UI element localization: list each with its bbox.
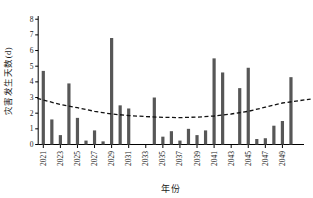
bar-2044 xyxy=(238,88,241,144)
x-tick-label-2041: 2041 xyxy=(210,151,219,166)
chart-plot-area: 0123456782021202320252027202920312033203… xyxy=(0,0,313,198)
bar-2048 xyxy=(272,126,275,145)
y-tick-label-8: 8 xyxy=(30,15,34,24)
bar-2035 xyxy=(161,137,164,145)
x-tick-label-2027: 2027 xyxy=(90,151,99,166)
bar-2029 xyxy=(110,38,113,144)
x-tick-label-2035: 2035 xyxy=(158,151,167,166)
y-tick-label-7: 7 xyxy=(30,30,34,39)
x-tick-label-2043: 2043 xyxy=(227,151,236,166)
x-tick-label-2033: 2033 xyxy=(141,151,150,166)
y-tick-label-3: 3 xyxy=(30,93,34,102)
bar-2030 xyxy=(119,105,122,144)
bar-2022 xyxy=(50,119,53,144)
x-tick-label-2023: 2023 xyxy=(56,151,65,166)
x-tick-label-2047: 2047 xyxy=(261,151,270,166)
x-tick-label-2037: 2037 xyxy=(175,151,184,166)
bar-2038 xyxy=(187,129,190,145)
y-tick-label-1: 1 xyxy=(30,124,34,133)
disaster-days-bar-chart: 0123456782021202320252027202920312033203… xyxy=(0,0,313,198)
bar-2050 xyxy=(289,77,292,144)
bar-2027 xyxy=(93,130,96,144)
bar-2025 xyxy=(76,118,79,145)
bar-2039 xyxy=(195,135,198,144)
bar-2034 xyxy=(153,98,156,145)
x-tick-label-2039: 2039 xyxy=(193,151,202,166)
y-tick-label-5: 5 xyxy=(30,62,34,71)
y-tick-label-6: 6 xyxy=(30,46,34,55)
bar-2047 xyxy=(264,138,267,144)
y-tick-label-2: 2 xyxy=(30,109,34,118)
x-tick-label-2021: 2021 xyxy=(39,151,48,166)
bar-2042 xyxy=(221,72,224,144)
x-tick-label-2029: 2029 xyxy=(107,151,116,166)
bar-2024 xyxy=(67,83,70,144)
x-tick-label-2049: 2049 xyxy=(278,151,287,166)
bar-2023 xyxy=(59,135,62,144)
bar-2036 xyxy=(170,131,173,144)
x-tick-label-2025: 2025 xyxy=(73,151,82,166)
bar-2046 xyxy=(255,139,258,144)
x-axis-title: 年份 xyxy=(38,182,304,195)
bar-2028 xyxy=(101,141,104,144)
trend-line xyxy=(37,98,310,117)
bar-2040 xyxy=(204,130,207,144)
bar-2021 xyxy=(42,71,45,145)
y-tick-label-0: 0 xyxy=(30,140,34,149)
bar-2041 xyxy=(213,58,216,144)
bar-2037 xyxy=(178,141,181,145)
bar-2031 xyxy=(127,108,130,144)
bar-2026 xyxy=(84,141,87,145)
y-tick-label-4: 4 xyxy=(30,77,34,86)
x-tick-label-2031: 2031 xyxy=(124,151,133,166)
bar-2049 xyxy=(281,121,284,144)
y-axis-title: 灾害发生天数(d) xyxy=(1,21,15,141)
bar-2045 xyxy=(247,68,250,145)
x-tick-label-2045: 2045 xyxy=(244,151,253,166)
